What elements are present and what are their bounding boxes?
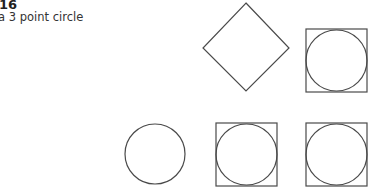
circle-in-square-bottom-right bbox=[306, 123, 367, 186]
shapes-diagram bbox=[0, 0, 371, 188]
circle-in-square-top bbox=[306, 29, 367, 92]
circle-in-square-bottom-middle bbox=[216, 123, 277, 186]
circle-shape bbox=[125, 124, 185, 184]
diamond-shape bbox=[203, 3, 289, 91]
